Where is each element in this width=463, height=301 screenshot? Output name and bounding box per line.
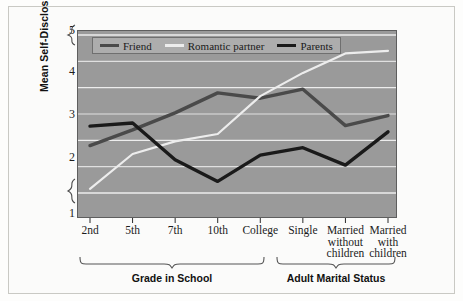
y-tick-4: 4 bbox=[57, 64, 75, 79]
brace-grade-in-school-icon bbox=[78, 256, 266, 269]
brace-adult-marital-status-icon bbox=[275, 256, 397, 269]
y-tick-2: 2 bbox=[57, 150, 75, 165]
y-tick-1: 1 bbox=[57, 206, 75, 221]
legend-swatch-romantic-partner bbox=[165, 44, 184, 48]
legend-swatch-parents bbox=[277, 44, 296, 48]
series-line-friend bbox=[90, 89, 388, 145]
y-tick-3: 3 bbox=[57, 107, 75, 122]
group-label-adult-marital-status: Adult Marital Status bbox=[275, 272, 397, 284]
chart-legend: Friend Romantic partner Parents bbox=[92, 37, 341, 54]
legend-label-friend: Friend bbox=[123, 40, 152, 52]
axis-break-top-icon bbox=[64, 24, 78, 46]
series-lines bbox=[90, 51, 388, 189]
legend-item-romantic-partner: Romantic partner bbox=[165, 40, 265, 52]
chart-svg bbox=[78, 31, 396, 217]
plot-area: Friend Romantic partner Parents bbox=[77, 30, 397, 218]
series-line-parents bbox=[90, 123, 388, 181]
group-label-grade-in-school: Grade in School bbox=[78, 272, 266, 284]
y-axis-label-wrap: Mean Self-Disclosure Score bbox=[44, 40, 58, 210]
legend-swatch-friend bbox=[100, 44, 119, 48]
legend-item-parents: Parents bbox=[277, 40, 332, 52]
x-tick-label-married-with-children: Marriedwithchildren bbox=[362, 225, 414, 260]
x-tick-line: Married bbox=[362, 225, 414, 237]
legend-label-romantic-partner: Romantic partner bbox=[188, 40, 265, 52]
figure-container: Mean Self-Disclosure Score 5 4 3 2 1 Fri… bbox=[0, 0, 463, 301]
legend-item-friend: Friend bbox=[100, 40, 152, 52]
axis-break-bottom-icon bbox=[64, 178, 78, 204]
legend-label-parents: Parents bbox=[300, 40, 332, 52]
y-axis-label: Mean Self-Disclosure Score bbox=[38, 0, 50, 92]
